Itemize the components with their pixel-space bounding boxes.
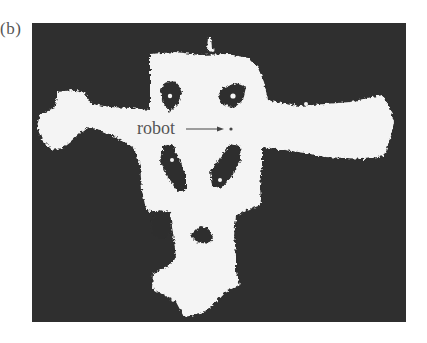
map-graphic [32, 23, 406, 322]
occupancy-map: robot [32, 23, 406, 322]
panel-label: (b) [0, 19, 21, 39]
robot-position-dot [229, 127, 232, 130]
robot-label: robot [137, 119, 175, 137]
